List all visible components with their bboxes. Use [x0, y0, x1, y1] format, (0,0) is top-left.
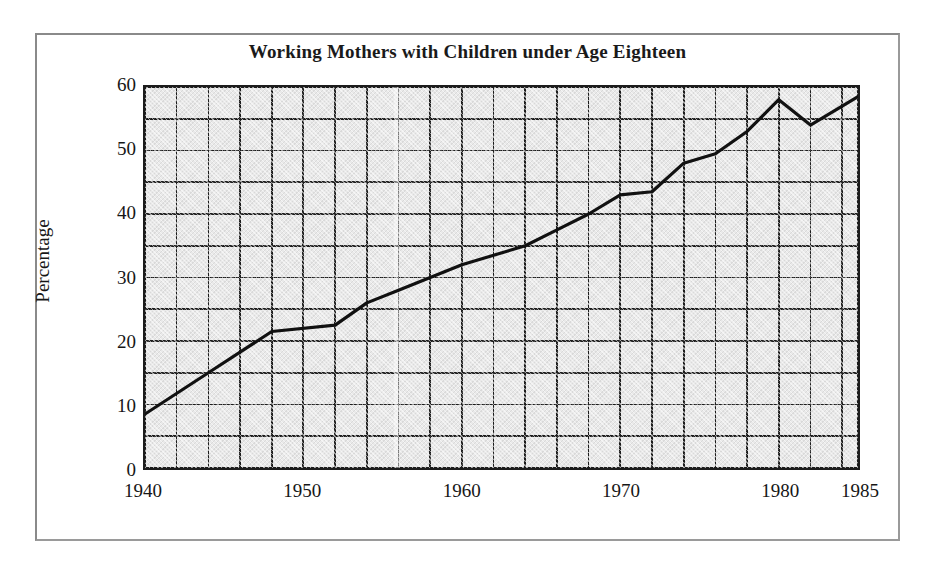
x-tick-label: 1960	[443, 481, 481, 500]
y-tick-label: 60	[96, 75, 136, 94]
y-axis-title: Percentage	[32, 181, 54, 341]
figure-root: Working Mothers with Children under Age …	[0, 0, 927, 575]
y-tick-label: 20	[96, 332, 136, 351]
x-tick-label: 1940	[124, 481, 162, 500]
plot-area	[143, 85, 860, 470]
x-tick-label: 1970	[602, 481, 640, 500]
x-axis-tick-labels: 194019501960197019801985	[0, 481, 927, 511]
y-tick-label: 30	[96, 268, 136, 287]
data-series-line	[145, 87, 858, 468]
y-tick-label: 0	[96, 460, 136, 479]
y-axis-tick-labels: 0102030405060	[88, 85, 136, 470]
y-tick-label: 40	[96, 203, 136, 222]
x-tick-label: 1980	[761, 481, 799, 500]
x-tick-label: 1985	[841, 481, 879, 500]
series-polyline	[145, 97, 858, 414]
chart-title: Working Mothers with Children under Age …	[35, 41, 900, 63]
y-tick-label: 50	[96, 139, 136, 158]
y-tick-label: 10	[96, 396, 136, 415]
x-tick-label: 1950	[283, 481, 321, 500]
